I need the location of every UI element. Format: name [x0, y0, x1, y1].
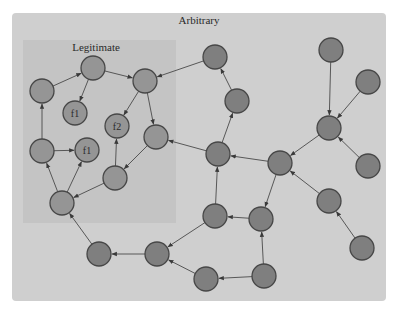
- node-E[interactable]: [30, 139, 54, 163]
- node-label: f1: [71, 108, 79, 119]
- node-B[interactable]: [81, 56, 105, 80]
- node-circle[interactable]: [356, 70, 380, 94]
- node-D[interactable]: [144, 125, 168, 149]
- node-circle[interactable]: [356, 154, 380, 178]
- node-circle[interactable]: [145, 242, 169, 266]
- node-W[interactable]: [252, 264, 276, 288]
- legitimate-region-label: Legitimate: [72, 41, 120, 53]
- node-circle[interactable]: [317, 189, 341, 213]
- node-O[interactable]: [356, 154, 380, 178]
- node-P[interactable]: [317, 189, 341, 213]
- node-circle[interactable]: [206, 142, 230, 166]
- node-circle[interactable]: [319, 38, 343, 62]
- node-U[interactable]: [87, 242, 111, 266]
- node-circle[interactable]: [103, 166, 127, 190]
- node-circle[interactable]: [317, 116, 341, 140]
- node-circle[interactable]: [87, 242, 111, 266]
- node-J[interactable]: [206, 142, 230, 166]
- node-circle[interactable]: [203, 204, 227, 228]
- node-F[interactable]: [103, 166, 127, 190]
- node-circle[interactable]: [225, 89, 249, 113]
- node-R[interactable]: [203, 204, 227, 228]
- node-T[interactable]: [145, 242, 169, 266]
- node-circle[interactable]: [194, 267, 218, 291]
- node-circle[interactable]: [203, 45, 227, 69]
- node-Q[interactable]: [350, 236, 374, 260]
- node-circle[interactable]: [50, 191, 74, 215]
- node-circle[interactable]: [252, 264, 276, 288]
- node-f1b[interactable]: f1: [75, 138, 99, 162]
- node-circle[interactable]: [81, 56, 105, 80]
- node-K[interactable]: [268, 151, 292, 175]
- node-f1a[interactable]: f1: [63, 101, 87, 125]
- arbitrary-region-label: Arbitrary: [179, 14, 220, 26]
- node-A[interactable]: [30, 79, 54, 103]
- node-circle[interactable]: [144, 125, 168, 149]
- node-G[interactable]: [50, 191, 74, 215]
- node-label: f2: [113, 121, 121, 132]
- node-L[interactable]: [319, 38, 343, 62]
- node-M[interactable]: [356, 70, 380, 94]
- node-I[interactable]: [225, 89, 249, 113]
- node-circle[interactable]: [350, 236, 374, 260]
- node-N[interactable]: [317, 116, 341, 140]
- node-H[interactable]: [203, 45, 227, 69]
- node-S[interactable]: [249, 207, 273, 231]
- node-circle[interactable]: [133, 69, 157, 93]
- node-circle[interactable]: [249, 207, 273, 231]
- node-circle[interactable]: [268, 151, 292, 175]
- node-circle[interactable]: [30, 79, 54, 103]
- node-circle[interactable]: [30, 139, 54, 163]
- node-C[interactable]: [133, 69, 157, 93]
- network-diagram: Arbitrary Legitimate f1f2f1: [0, 0, 395, 312]
- node-f2[interactable]: f2: [105, 114, 129, 138]
- node-V[interactable]: [194, 267, 218, 291]
- node-label: f1: [83, 145, 91, 156]
